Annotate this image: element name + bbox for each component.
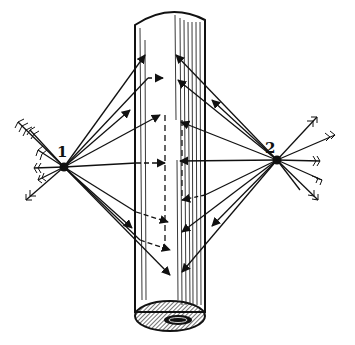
cylinder-core: [164, 315, 192, 325]
cylinder: [135, 12, 205, 331]
diagram-canvas: 1 2: [0, 0, 355, 345]
label-point-2: 2: [265, 139, 275, 157]
arrow-fletchings-point-2: [277, 117, 335, 200]
label-point-1: 1: [57, 143, 67, 161]
diagram-figure: 1 2: [0, 0, 355, 345]
